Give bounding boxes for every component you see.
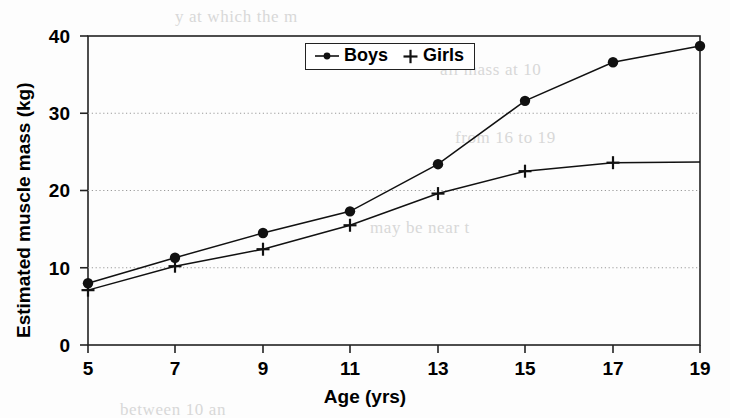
x-tick-label-17: 17 [593,358,633,380]
x-tick-label-15: 15 [505,358,545,380]
x-tick-label-19: 19 [680,358,720,380]
gridlines [88,113,700,268]
y-axis-ticks [80,36,88,345]
y-tick-label-0: 0 [28,335,70,357]
plus-marker-icon [402,49,419,64]
filled-circle-with-line-icon [314,49,340,63]
series-boys [83,41,705,289]
girls-markers [82,156,620,296]
y-tick-label-40: 40 [28,26,70,48]
x-tick-label-11: 11 [330,358,370,380]
x-axis-title: Age (yrs) [0,386,730,408]
legend-entry-girls: Girls [402,47,464,65]
x-tick-label-13: 13 [418,358,458,380]
x-tick-label-5: 5 [68,358,108,380]
boys-markers [83,41,705,289]
chart-figure: y at which the m all mass at 10 from 16 … [0,0,730,418]
legend-label-girls: Girls [423,46,464,64]
x-tick-label-9: 9 [243,358,283,380]
x-tick-label-7: 7 [155,358,195,380]
series-girls [82,156,701,296]
x-axis-ticks [88,345,700,353]
chart-legend: Boys Girls [305,43,475,70]
legend-label-boys: Boys [344,46,388,64]
y-axis-title: Estimated muscle mass (kg) [13,82,35,338]
legend-entry-boys: Boys [314,47,388,65]
